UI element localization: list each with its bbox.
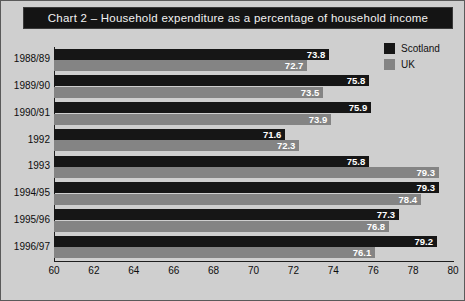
bar-scotland: 77.3 [54,209,399,220]
bar-value-label: 78.4 [399,194,422,205]
bar-group: 79.378.4 [54,181,453,208]
bar-scotland: 79.2 [54,236,437,247]
x-tick-label: 72 [288,265,299,276]
bar-track: 75.8 [54,75,453,86]
x-tick-label: 66 [168,265,179,276]
bar-value-label: 73.8 [307,49,330,60]
x-tick-label: 64 [128,265,139,276]
y-tick-label: 1988/89 [14,53,50,64]
bar-track: 73.8 [54,49,453,60]
bar-track: 75.8 [54,156,453,167]
y-tick-label: 1994/95 [14,187,50,198]
bar-uk: 78.4 [54,194,421,205]
bar-value-label: 73.5 [301,87,324,98]
bar-scotland: 75.8 [54,156,369,167]
bar-value-label: 75.9 [349,102,372,113]
x-tick-label: 74 [328,265,339,276]
bar-uk: 73.9 [54,114,331,125]
chart-title-banner: Chart 2 – Household expenditure as a per… [23,7,453,29]
bar-track: 75.9 [54,102,453,113]
bar-uk: 72.3 [54,140,299,151]
x-tick-label: 68 [208,265,219,276]
bar-track: 76.8 [54,221,453,232]
bar-value-label: 73.9 [309,114,332,125]
x-tick-label: 78 [408,265,419,276]
plot-area: 73.872.775.873.575.973.971.672.375.879.3… [54,47,453,261]
bar-track: 77.3 [54,209,453,220]
bar-group: 75.973.9 [54,101,453,128]
bar-uk: 72.7 [54,60,307,71]
bar-group: 77.376.8 [54,208,453,235]
bar-group: 75.873.5 [54,74,453,101]
x-tick-label: 80 [447,265,458,276]
x-tick-label: 60 [48,265,59,276]
bar-group: 71.672.3 [54,127,453,154]
y-tick-label: 1993 [28,160,50,171]
bar-value-label: 79.3 [417,167,440,178]
x-axis-labels: 6062646668707274767880 [1,265,465,279]
bar-scotland: 75.8 [54,75,369,86]
x-axis-line [54,261,454,262]
bar-track: 71.6 [54,129,453,140]
y-tick-label: 1996/97 [14,241,50,252]
bar-group: 73.872.7 [54,47,453,74]
bar-track: 72.7 [54,60,453,71]
bar-track: 78.4 [54,194,453,205]
bar-value-label: 79.3 [417,182,440,193]
bar-value-label: 76.8 [367,221,390,232]
bar-track: 76.1 [54,247,453,258]
bar-scotland: 75.9 [54,102,371,113]
x-tick-label: 62 [88,265,99,276]
bar-uk: 76.8 [54,221,389,232]
x-tick-label: 70 [248,265,259,276]
caption-strip [2,294,465,300]
bar-track: 72.3 [54,140,453,151]
bar-track: 73.5 [54,87,453,98]
bar-track: 73.9 [54,114,453,125]
bar-group: 75.879.3 [54,154,453,181]
bar-group: 79.276.1 [54,234,453,261]
y-axis-labels: 1988/891989/901990/91199219931994/951995… [1,47,50,261]
bar-value-label: 71.6 [263,129,286,140]
y-tick-label: 1995/96 [14,214,50,225]
y-tick-label: 1992 [28,134,50,145]
y-tick-label: 1990/91 [14,107,50,118]
bar-track: 79.3 [54,182,453,193]
bar-value-label: 72.3 [277,140,300,151]
bar-value-label: 72.7 [285,60,308,71]
bar-scotland: 71.6 [54,129,285,140]
y-tick-label: 1989/90 [14,80,50,91]
bar-track: 79.2 [54,236,453,247]
bar-track: 79.3 [54,167,453,178]
x-tick-label: 76 [368,265,379,276]
page-title: Chart 2 – Household expenditure as a per… [48,12,429,24]
bar-uk: 76.1 [54,247,375,258]
bar-uk: 79.3 [54,167,439,178]
bar-scotland: 79.3 [54,182,439,193]
bar-value-label: 76.1 [353,247,376,258]
bar-value-label: 79.2 [415,236,438,247]
bar-uk: 73.5 [54,87,323,98]
bar-value-label: 75.8 [347,156,370,167]
bar-value-label: 77.3 [377,209,400,220]
bar-scotland: 73.8 [54,49,329,60]
chart-figure: Chart 2 – Household expenditure as a per… [0,0,465,301]
bar-value-label: 75.8 [347,75,370,86]
